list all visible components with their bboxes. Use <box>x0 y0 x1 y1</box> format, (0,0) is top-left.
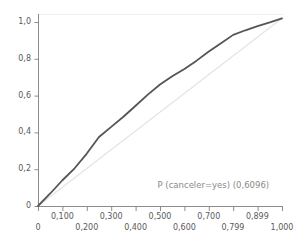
x-tick-label: 0,700 <box>194 212 224 221</box>
x-tick-label: 0,799 <box>218 223 248 232</box>
x-tick-label: 0,300 <box>96 212 126 221</box>
plot-canvas <box>0 0 295 246</box>
x-tick-label: 0,400 <box>121 223 151 232</box>
y-tick-label: 0,6 <box>11 91 31 100</box>
x-tick-label: 0,899 <box>242 212 272 221</box>
curve-annotation-label: P (canceler=yes) (0,6096) <box>158 180 270 190</box>
x-tick-label: 0,600 <box>169 223 199 232</box>
y-tick-label: 0 <box>11 201 31 210</box>
x-tick-label: 0,500 <box>145 212 175 221</box>
baseline-diagonal-line <box>38 18 282 206</box>
y-tick-label: 0,4 <box>11 127 31 136</box>
y-tick-label: 1,0 <box>11 17 31 26</box>
x-tick-label: 0,200 <box>72 223 102 232</box>
y-tick-marks <box>35 23 39 207</box>
x-tick-label: 0 <box>23 223 53 232</box>
x-tick-marks <box>39 207 283 211</box>
y-tick-label: 0,2 <box>11 164 31 173</box>
x-tick-label: 0,100 <box>47 212 77 221</box>
roc-chart: 00,20,40,60,81,0 0,1000,3000,5000,7000,8… <box>0 0 295 246</box>
y-tick-label: 0,8 <box>11 54 31 63</box>
x-tick-label: 1,000 <box>267 223 295 232</box>
